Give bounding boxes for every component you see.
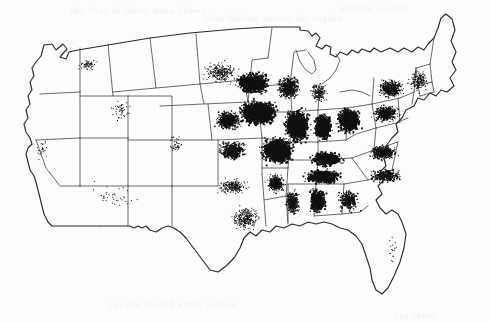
dot-density-layer [0,0,490,322]
dot-density-map-figure: the first of these maps showsdistributio… [0,0,490,322]
